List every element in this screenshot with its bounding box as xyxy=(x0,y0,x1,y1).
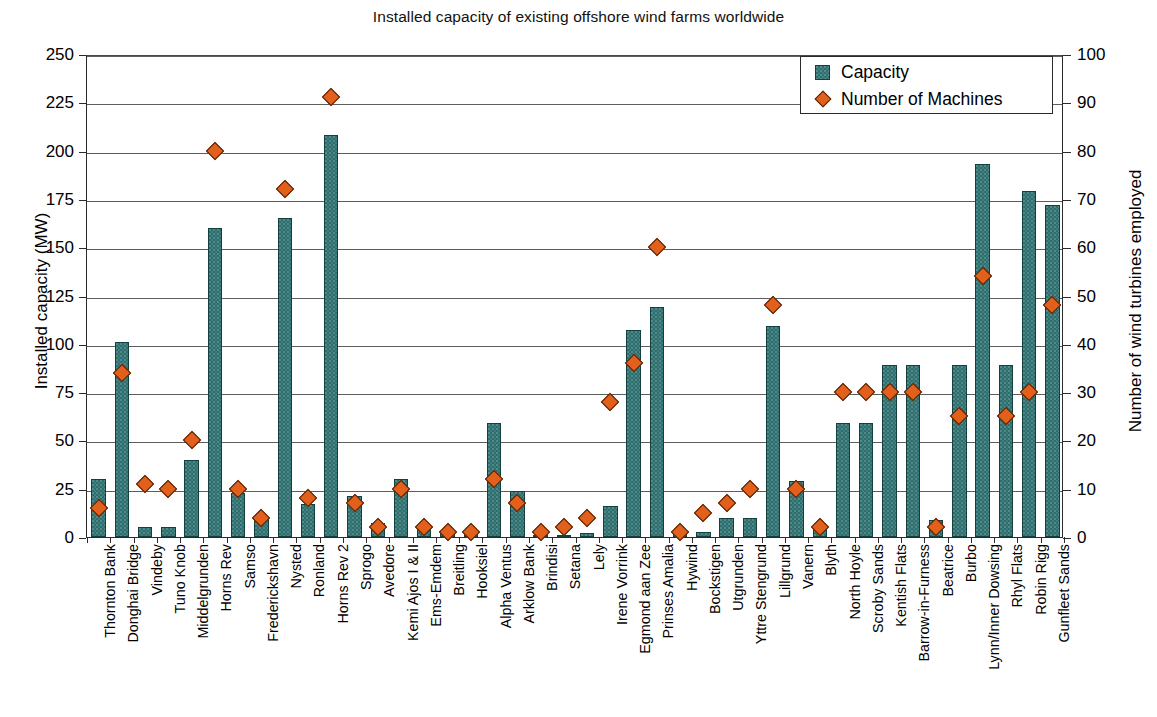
x-axis-tick xyxy=(1041,537,1042,543)
x-axis-tick xyxy=(831,537,832,543)
x-axis-label-breitling: Breitling xyxy=(452,544,466,596)
x-axis-label-setana: Setana xyxy=(568,544,582,589)
marker-prinses-amalia xyxy=(648,238,666,256)
x-axis-tick xyxy=(669,537,670,543)
y-axis-left-tick xyxy=(79,490,86,491)
y-axis-left-tick xyxy=(79,200,86,201)
bar-prinses-amalia xyxy=(650,307,664,537)
bar-yttre-stengrund xyxy=(743,518,757,537)
x-axis-tick xyxy=(180,537,181,543)
x-axis-label-irene-vorrink: Irene Vorrink xyxy=(615,544,629,625)
bar-ronland xyxy=(301,504,315,537)
x-axis-label-lely: Lely xyxy=(592,544,606,570)
y-axis-left-tick xyxy=(79,441,86,442)
x-axis-label-tuno-knob: Tuno Knob xyxy=(173,544,187,613)
x-axis-label-barrow-in-furness: Barrow-in-Furness xyxy=(917,544,931,662)
y-axis-right-tick-label: 100 xyxy=(1077,46,1105,63)
marker-north-hoyle xyxy=(834,383,852,401)
x-axis-label-utgrunden: Utgrunden xyxy=(731,544,745,611)
x-axis-label-yttre-stengrund: Yttre Stengrund xyxy=(754,544,768,644)
y-axis-right-title: Number of wind turbines employed xyxy=(1126,71,1146,531)
y-axis-right-tick-label: 50 xyxy=(1077,288,1096,305)
x-axis-tick xyxy=(692,537,693,543)
gridline xyxy=(87,201,1062,202)
y-axis-right-tick xyxy=(1063,200,1071,201)
x-axis-tick xyxy=(855,537,856,543)
x-axis-tick xyxy=(157,537,158,543)
y-axis-right-tick-label: 0 xyxy=(1077,529,1086,546)
y-axis-right-tick xyxy=(1063,103,1071,104)
y-axis-left: 0255075100125150175200225250 xyxy=(0,55,86,538)
x-axis-tick xyxy=(203,537,204,543)
y-axis-left-tick xyxy=(79,297,86,298)
y-axis-left-tick-label: 225 xyxy=(46,94,74,111)
marker-hooksiel xyxy=(462,523,480,541)
bar-lillgrund xyxy=(766,326,780,537)
y-axis-left-tick-label: 175 xyxy=(46,191,74,208)
x-axis-label-egmond-aan-zee: Egmond aan Zee xyxy=(638,544,652,654)
marker-utgrunden xyxy=(717,494,735,512)
x-axis-tick xyxy=(227,537,228,543)
bar-utgrunden xyxy=(719,518,733,537)
chart-legend: Capacity Number of Machines xyxy=(800,56,1053,114)
x-axis-tick xyxy=(576,537,577,543)
y-axis-right-tick-label: 90 xyxy=(1077,94,1096,111)
x-axis-tick xyxy=(273,537,274,543)
x-axis-tick xyxy=(924,537,925,543)
y-axis-left-tick-label: 100 xyxy=(46,336,74,353)
bar-bockstigen xyxy=(696,532,710,537)
bar-lely xyxy=(580,533,594,537)
x-axis-label-alpha-ventus: Alpha Ventus xyxy=(499,544,513,628)
marker-lely xyxy=(578,508,596,526)
gridline xyxy=(87,249,1062,250)
x-axis-tick xyxy=(250,537,251,543)
machines-diamond-icon xyxy=(814,91,831,108)
capacity-swatch-icon xyxy=(815,65,830,80)
bar-horns-rev-2 xyxy=(324,135,338,537)
x-axis-tick xyxy=(622,537,623,543)
x-axis-label-kentish-flats: Kentish Flats xyxy=(894,544,908,627)
bar-samso xyxy=(231,493,245,537)
x-axis-tick xyxy=(994,537,995,543)
gridline xyxy=(87,298,1062,299)
x-axis-tick xyxy=(413,537,414,543)
x-axis-label-blyth: Blyth xyxy=(824,544,838,576)
bar-north-hoyle xyxy=(836,423,850,537)
marker-lillgrund xyxy=(764,296,782,314)
x-axis-tick xyxy=(389,537,390,543)
x-axis-label-north-hoyle: North Hoyle xyxy=(848,544,862,620)
x-axis-label-nysted: Nysted xyxy=(289,544,303,589)
bar-middelgrunden xyxy=(184,460,198,537)
x-axis-tick xyxy=(901,537,902,543)
legend-item-machines: Number of Machines xyxy=(815,87,1002,111)
marker-tuno-knob xyxy=(159,480,177,498)
y-axis-right-tick-label: 80 xyxy=(1077,143,1096,160)
x-axis-label-lillgrund: Lillgrund xyxy=(778,544,792,598)
x-axis-tick xyxy=(762,537,763,543)
bar-vindeby xyxy=(138,527,152,537)
bar-horns-rev xyxy=(208,228,222,537)
x-axis-label-frederickshavn: Frederickshavn xyxy=(266,544,280,642)
x-axis-tick xyxy=(506,537,507,543)
y-axis-left-tick xyxy=(79,103,86,104)
x-axis-tick xyxy=(971,537,972,543)
x-axis-label-samso: Samso xyxy=(243,544,257,589)
x-axis-tick xyxy=(296,537,297,543)
x-axis-label-sprogo: Sprogo xyxy=(359,544,373,590)
gridline xyxy=(87,346,1062,347)
x-axis-label-beatrice: Beatrice xyxy=(941,544,955,596)
x-axis-label-robin-rigg: Robin Rigg xyxy=(1034,544,1048,615)
bar-burbo xyxy=(952,365,966,537)
x-axis-tick xyxy=(948,537,949,543)
x-axis-label-ems-emdem: Ems-Emdem xyxy=(429,544,443,627)
x-axis-label-scroby-sands: Scroby Sands xyxy=(871,544,885,633)
y-axis-right-tick-label: 20 xyxy=(1077,432,1096,449)
x-axis-label-bockstigen: Bockstigen xyxy=(708,544,722,614)
x-axis-tick xyxy=(366,537,367,543)
bar-robin-rigg xyxy=(1022,191,1036,537)
y-axis-left-tick-label: 0 xyxy=(65,529,74,546)
legend-label-capacity: Capacity xyxy=(841,62,909,83)
bar-tuno-knob xyxy=(161,527,175,537)
y-axis-right-tick xyxy=(1063,345,1071,346)
bar-rhyl-flats xyxy=(999,365,1013,537)
